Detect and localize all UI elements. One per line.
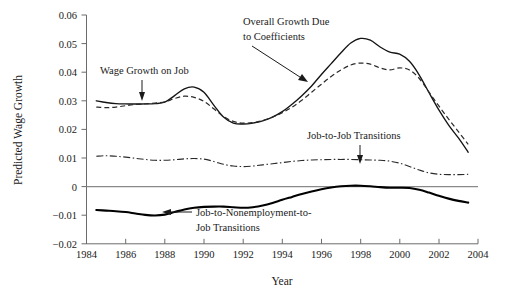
x-tick-label-2002: 2002 [429,249,450,260]
x-tick-label-1986: 1986 [115,249,136,260]
y-tick-label-6: 0 [72,182,77,193]
y-tick-label-3: 0.03 [59,96,77,107]
predicted-wage-growth-line-chart: 0.06 0.05 0.04 0.03 0.02 0.01 0 −0.01 −0… [0,0,512,301]
y-tick-label-7: −0.01 [53,210,77,221]
x-tick-label-1984: 1984 [76,249,98,260]
y-tick-label-5: 0.01 [59,153,77,164]
y-tick-label-0: 0.06 [59,10,77,21]
annotation-label-job-to-nonemployment-line1: Job-to-Nonemployment-to- [196,207,312,218]
annotation-label-wage-growth-on-job: Wage Growth on Job [100,65,189,76]
x-tick-label-1992: 1992 [233,249,254,260]
y-tick-label-1: 0.05 [59,39,77,50]
y-tick-label-4: 0.02 [59,124,77,135]
annotation-label-job-to-nonemployment-line2: Job Transitions [196,222,260,233]
y-tick-label-8: −0.02 [53,239,77,250]
chart-figure: 0.06 0.05 0.04 0.03 0.02 0.01 0 −0.01 −0… [0,0,512,301]
x-axis-title: Year [271,275,292,287]
annotation-label-job-to-job: Job-to-Job Transitions [307,130,401,141]
x-tick-label-1994: 1994 [272,249,294,260]
x-tick-label-1990: 1990 [194,249,215,260]
y-axis-title: Predicted Wage Growth [12,75,25,185]
x-tick-label-1998: 1998 [350,249,371,260]
x-tick-label-1988: 1988 [154,249,175,260]
x-tick-label-2004: 2004 [468,249,490,260]
annotation-label-overall-growth-line2: to Coefficients [243,31,305,42]
x-tick-label-1996: 1996 [311,249,332,260]
y-tick-label-2: 0.04 [59,67,78,78]
x-tick-label-2000: 2000 [389,249,410,260]
annotation-label-overall-growth-line1: Overall Growth Due [243,16,330,27]
